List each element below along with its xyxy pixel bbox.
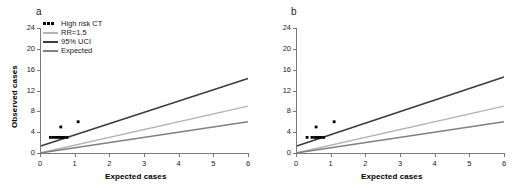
data-point-b-6 [322,136,325,139]
legend-line-icon [43,32,58,34]
legend-label: High risk CT [61,19,102,28]
plot-area-b: 048121620240123456 [296,28,504,153]
y-tick-b-4 [293,70,296,71]
data-point-a-0 [49,136,52,139]
legend-item-expected: Expected [43,46,102,55]
legend-line-swatch-icon [43,37,58,46]
x-tick-label-b-5: 5 [461,159,477,168]
y-tick-a-3 [37,91,40,92]
x-tick-label-a-2: 2 [101,159,117,168]
legend-label: 95% UCI [61,37,91,46]
line-a-95-uci [40,79,248,147]
data-point-b-8 [333,120,336,123]
line-a-expected [40,122,248,153]
series-layer-b [296,28,504,153]
panel-letter-b: b [291,6,297,17]
legend-line-icon [43,50,58,52]
x-axis-title-b: Expected cases [361,172,422,181]
y-tick-b-6 [293,28,296,29]
data-point-a-9 [77,120,80,123]
y-tick-label-a-0: 0 [18,148,35,157]
x-tick-label-b-1: 1 [323,159,339,168]
y-tick-label-a-2: 8 [18,106,35,115]
x-tick-a-5 [213,154,214,157]
legend-label: Expected [61,46,92,55]
data-point-b-5 [320,136,323,139]
y-tick-label-a-4: 16 [18,65,35,74]
legend-dot-icon [51,22,54,25]
legend-label: RR=1.5 [61,28,87,37]
data-point-a-8 [59,126,62,129]
line-b-rr-1-5 [296,106,504,153]
data-point-b-1 [311,136,314,139]
panel-letter-a: a [36,6,42,17]
x-tick-a-4 [179,154,180,157]
data-point-a-6 [63,136,66,139]
legend-dots-icon [43,22,54,25]
x-tick-label-b-2: 2 [357,159,373,168]
y-axis-line-b [296,28,297,153]
y-tick-b-3 [293,91,296,92]
x-tick-a-2 [109,154,110,157]
x-tick-label-b-0: 0 [288,159,304,168]
y-tick-label-b-3: 12 [274,86,291,95]
x-tick-a-1 [75,154,76,157]
legend-item-high-risk-ct: High risk CT [43,19,102,28]
x-tick-label-a-6: 6 [240,159,256,168]
data-point-a-2 [54,136,57,139]
x-tick-a-3 [144,154,145,157]
x-tick-b-3 [400,154,401,157]
x-tick-b-1 [331,154,332,157]
y-tick-label-b-6: 24 [274,23,291,32]
data-point-b-0 [306,136,309,139]
legend-line-icon [43,41,58,43]
x-tick-label-a-4: 4 [171,159,187,168]
y-tick-label-b-0: 0 [274,148,291,157]
y-tick-a-1 [37,132,40,133]
x-tick-b-0 [296,154,297,157]
legend-item-rr-1-5: RR=1.5 [43,28,102,37]
x-tick-label-b-3: 3 [392,159,408,168]
y-tick-b-2 [293,111,296,112]
x-tick-label-b-6: 6 [496,159,512,168]
y-tick-label-a-1: 4 [18,127,35,136]
x-tick-label-a-1: 1 [67,159,83,168]
y-tick-label-b-4: 16 [274,65,291,74]
y-axis-line-a [40,28,41,153]
y-tick-label-a-6: 24 [18,23,35,32]
y-tick-a-5 [37,49,40,50]
y-tick-label-a-5: 20 [18,44,35,53]
line-b-expected [296,122,504,153]
y-tick-a-2 [37,111,40,112]
legend-line-swatch-icon [43,28,58,37]
x-tick-label-a-5: 5 [205,159,221,168]
y-tick-label-a-3: 12 [18,86,35,95]
y-tick-a-4 [37,70,40,71]
x-tick-b-5 [469,154,470,157]
y-tick-b-1 [293,132,296,133]
x-tick-label-a-3: 3 [136,159,152,168]
x-tick-b-6 [504,154,505,157]
legend-dot-icon [43,22,46,25]
x-axis-title-a: Expected cases [105,172,166,181]
legend-dot-icon [47,22,50,25]
x-tick-b-2 [365,154,366,157]
x-tick-label-b-4: 4 [427,159,443,168]
y-tick-b-5 [293,49,296,50]
x-tick-label-a-0: 0 [32,159,48,168]
legend-a: High risk CTRR=1.595% UCIExpected [43,19,102,55]
x-tick-b-4 [435,154,436,157]
data-point-a-1 [52,136,55,139]
data-point-b-7 [315,126,318,129]
y-tick-a-6 [37,28,40,29]
legend-item-95-uci: 95% UCI [43,37,102,46]
y-tick-label-b-2: 8 [274,106,291,115]
y-axis-title-a: Observed cases [10,65,19,128]
data-point-a-7 [66,136,69,139]
x-tick-a-0 [40,154,41,157]
y-tick-label-b-1: 4 [274,127,291,136]
panel-a: a Observed cases 048121620240123456 Expe… [0,0,263,188]
legend-line-swatch-icon [43,46,58,55]
panel-b: b 048121620240123456 Expected cases [263,0,526,188]
legend-marker-swatch-icon [43,19,58,28]
